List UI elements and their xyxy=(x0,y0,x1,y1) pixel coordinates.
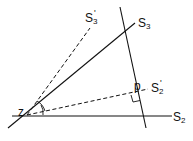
dashed-line-s3-prime xyxy=(27,28,90,115)
label-p: p xyxy=(134,80,141,92)
label-s3: S3 xyxy=(138,17,150,31)
label-s2: S2 xyxy=(173,111,185,125)
diagram-canvas: S3' S3 p S2' S2 z xyxy=(0,0,193,141)
label-z: z xyxy=(18,106,24,118)
label-s3-prime: S3' xyxy=(85,12,97,26)
dashed-line-s2-prime xyxy=(27,89,148,115)
line-s3 xyxy=(8,23,135,128)
label-s2-prime: S2' xyxy=(151,82,163,96)
